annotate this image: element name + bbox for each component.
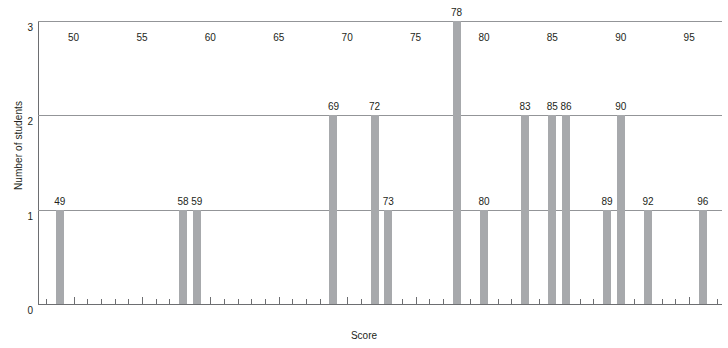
bar-value-label: 59 [191, 196, 202, 207]
x-tick-91 [634, 299, 635, 305]
x-tick-52 [101, 299, 102, 305]
x-tick-79 [470, 299, 471, 305]
x-tick-57 [169, 299, 170, 305]
bar[interactable] [603, 210, 611, 304]
x-tick-label-75: 75 [410, 32, 421, 43]
x-tick-65 [279, 297, 280, 305]
x-tick-67 [306, 299, 307, 305]
x-tick-84 [539, 299, 540, 305]
x-tick-50 [74, 297, 75, 305]
x-tick-94 [675, 299, 676, 305]
x-tick-76 [429, 299, 430, 305]
bar-value-label: 80 [478, 196, 489, 207]
x-tick-64 [265, 299, 266, 305]
x-tick-56 [156, 299, 157, 305]
x-tick-88 [593, 299, 594, 305]
x-tick-48 [46, 299, 47, 305]
x-tick-95 [689, 297, 690, 305]
x-tick-label-90: 90 [615, 32, 626, 43]
x-tick-63 [251, 299, 252, 305]
bar-value-label: 96 [697, 196, 708, 207]
bar[interactable] [179, 210, 187, 304]
bar[interactable] [480, 210, 488, 304]
x-axis-title: Score [0, 330, 728, 341]
y-axis-title: Number of students [13, 76, 24, 216]
x-tick-62 [238, 299, 239, 305]
x-tick-55 [142, 297, 143, 305]
y-axis-line [38, 22, 39, 305]
x-tick-87 [580, 299, 581, 305]
x-axis-line [38, 304, 722, 305]
x-tick-60 [210, 297, 211, 305]
x-tick-97 [717, 299, 718, 305]
bar-value-label: 73 [383, 196, 394, 207]
x-tick-61 [224, 299, 225, 305]
x-tick-71 [361, 299, 362, 305]
x-tick-75 [416, 297, 417, 305]
x-tick-51 [87, 299, 88, 305]
bar[interactable] [329, 115, 337, 304]
bar-value-label: 86 [560, 101, 571, 112]
bar-value-label: 83 [519, 101, 530, 112]
gridline-y-3 [38, 21, 722, 22]
x-tick-77 [443, 299, 444, 305]
bar-value-label: 72 [369, 101, 380, 112]
x-tick-label-85: 85 [547, 32, 558, 43]
bar[interactable] [56, 210, 64, 304]
bar[interactable] [371, 115, 379, 304]
bar[interactable] [562, 115, 570, 304]
bar-value-label: 92 [643, 196, 654, 207]
bar-value-label: 49 [54, 196, 65, 207]
x-tick-label-50: 50 [68, 32, 79, 43]
bar-value-label: 90 [615, 101, 626, 112]
bar[interactable] [453, 21, 461, 304]
bar-value-label: 58 [177, 196, 188, 207]
bar-value-label: 69 [328, 101, 339, 112]
x-tick-82 [511, 299, 512, 305]
x-tick-label-95: 95 [684, 32, 695, 43]
bar-value-label: 78 [451, 7, 462, 18]
bar[interactable] [193, 210, 201, 304]
bar[interactable] [644, 210, 652, 304]
bar[interactable] [384, 210, 392, 304]
x-tick-label-60: 60 [205, 32, 216, 43]
x-tick-54 [128, 299, 129, 305]
x-tick-93 [662, 299, 663, 305]
bar-value-label: 89 [602, 196, 613, 207]
x-tick-81 [498, 299, 499, 305]
x-tick-label-70: 70 [342, 32, 353, 43]
bar-value-label: 85 [547, 101, 558, 112]
plot-area: 0123 50556065707580859095 49585969727378… [38, 22, 722, 305]
x-tick-70 [347, 297, 348, 305]
score-histogram: Number of students 0123 5055606570758085… [0, 0, 728, 348]
x-tick-label-65: 65 [273, 32, 284, 43]
bar[interactable] [521, 115, 529, 304]
x-tick-68 [320, 299, 321, 305]
bar[interactable] [548, 115, 556, 304]
bar[interactable] [617, 115, 625, 304]
x-tick-53 [115, 299, 116, 305]
x-tick-66 [292, 299, 293, 305]
x-tick-74 [402, 299, 403, 305]
x-tick-label-80: 80 [478, 32, 489, 43]
x-tick-label-55: 55 [136, 32, 147, 43]
bar[interactable] [699, 210, 707, 304]
